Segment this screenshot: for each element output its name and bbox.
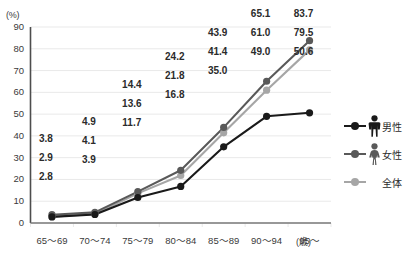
chart-legend: 男性女性全体	[344, 112, 417, 196]
legend-label-2: 全体	[382, 175, 402, 190]
data-label-女性-1: 4.9	[72, 116, 106, 127]
data-label-女性-6: 83.7	[287, 8, 321, 19]
data-label-男性-0: 2.8	[29, 171, 63, 182]
data-label-男性-6: 50.6	[287, 46, 321, 57]
data-label-男性-1: 3.9	[72, 154, 106, 165]
y-axis-tick-90: 90	[2, 21, 24, 32]
data-label-全体-6: 79.5	[287, 27, 321, 38]
data-label-女性-4: 43.9	[201, 27, 235, 38]
male-figure-icon	[368, 115, 381, 137]
legend-label-0: 男性	[382, 119, 402, 134]
data-label-全体-5: 61.0	[244, 27, 278, 38]
y-axis-tick-60: 60	[2, 86, 24, 97]
data-label-女性-0: 3.8	[29, 133, 63, 144]
data-label-男性-2: 11.7	[115, 117, 149, 128]
legend-swatch-icon	[344, 176, 366, 188]
legend-item-女性[interactable]: 女性	[344, 140, 417, 168]
y-axis-tick-10: 10	[2, 195, 24, 206]
y-axis-tick-0: 0	[2, 217, 24, 228]
data-label-全体-4: 41.4	[201, 46, 235, 57]
x-axis-unit-label: (歳)	[296, 235, 311, 248]
female-figure-icon	[368, 143, 381, 165]
data-label-女性-2: 14.4	[115, 79, 149, 90]
legend-swatch-icon	[344, 120, 366, 132]
data-label-男性-5: 49.0	[244, 46, 278, 57]
data-label-女性-3: 24.2	[158, 51, 192, 62]
y-axis-tick-20: 20	[2, 173, 24, 184]
y-axis-tick-30: 30	[2, 152, 24, 163]
data-label-全体-1: 4.1	[72, 135, 106, 146]
data-label-男性-4: 35.0	[201, 65, 235, 76]
data-label-男性-3: 16.8	[158, 89, 192, 100]
legend-item-全体[interactable]: 全体	[344, 168, 417, 196]
y-axis-tick-40: 40	[2, 130, 24, 141]
data-label-全体-0: 2.9	[29, 152, 63, 163]
y-axis-tick-50: 50	[2, 108, 24, 119]
legend-item-男性[interactable]: 男性	[344, 112, 417, 140]
legend-label-1: 女性	[382, 147, 402, 162]
data-label-全体-3: 21.8	[158, 70, 192, 81]
chart-container: (%) 9080706050403020100 65〜6970〜7475〜798…	[0, 0, 417, 256]
y-axis-tick-70: 70	[2, 65, 24, 76]
data-label-女性-5: 65.1	[244, 8, 278, 19]
y-axis-tick-80: 80	[2, 43, 24, 54]
data-label-全体-2: 13.6	[115, 98, 149, 109]
legend-swatch-icon	[344, 148, 366, 160]
